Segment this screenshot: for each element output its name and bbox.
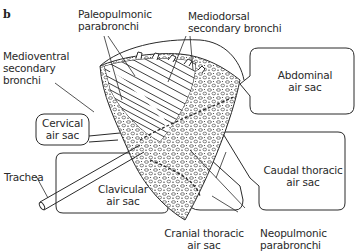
label-cervical-air-sac: Cervical air sac: [36, 117, 89, 141]
label-line: Clavicular: [88, 183, 158, 195]
label-line: Cranial thoracic: [158, 227, 250, 239]
label-cranial-thoracic-air-sac: Cranial thoracic air sac: [158, 227, 250, 251]
label-abdominal-air-sac: Abdominal air sac: [260, 69, 350, 93]
label-medioventral: Medioventral secondary bronchi: [3, 50, 69, 86]
label-line: Caudal thoracic: [258, 164, 348, 176]
label-line: Mediodorsal: [188, 10, 282, 22]
label-trachea: Trachea: [4, 171, 44, 183]
label-clavicular-air-sac: Clavicular air sac: [88, 183, 158, 207]
label-mediodorsal: Mediodorsal secondary bronchi: [188, 10, 282, 34]
label-paleopulmonic: Paleopulmonic parabronchi: [78, 8, 152, 32]
label-line: secondary: [3, 62, 69, 74]
label-line: parabronchi: [78, 20, 152, 32]
label-line: air sac: [258, 176, 348, 188]
label-line: secondary bronchi: [188, 22, 282, 34]
label-line: Medioventral: [3, 50, 69, 62]
avian-lung-diagram: b Paleopulmonic parabronchi Mediodorsal …: [0, 0, 359, 252]
label-line: air sac: [260, 81, 350, 93]
label-line: Neopulmonic: [260, 227, 327, 239]
label-line: air sac: [88, 195, 158, 207]
label-neopulmonic: Neopulmonic parabronchi: [260, 227, 327, 251]
label-line: air sac: [36, 129, 89, 141]
label-line: air sac: [158, 239, 250, 251]
label-caudal-thoracic-air-sac: Caudal thoracic air sac: [258, 164, 348, 188]
panel-letter: b: [3, 9, 11, 21]
label-line: parabronchi: [260, 239, 327, 251]
label-line: Paleopulmonic: [78, 8, 152, 20]
label-line: bronchi: [3, 74, 69, 86]
label-line: Cervical: [36, 117, 89, 129]
label-line: Abdominal: [260, 69, 350, 81]
